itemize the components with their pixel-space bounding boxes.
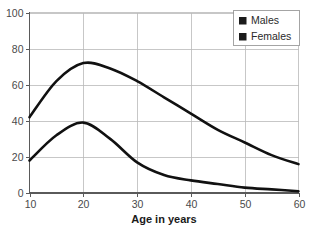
x-tick-label: 30 [132,198,144,210]
y-tick-label: 80 [12,43,24,55]
y-tick-label: 20 [12,151,24,163]
x-axis-title: Age in years [131,213,196,225]
x-tick-label: 20 [78,198,90,210]
chart-legend: MalesFemales [234,11,300,46]
legend-label-males: Males [251,14,279,26]
y-tick-label: 0 [18,187,24,199]
legend-swatch-males [239,17,247,25]
chart-canvas: 102030405060 020406080100 Age in years M… [0,0,309,235]
y-tick-label: 60 [12,79,24,91]
y-tick-label: 100 [6,7,24,19]
x-tick-label: 50 [240,198,252,210]
x-tick-label: 10 [25,198,37,210]
line-chart: 102030405060 020406080100 Age in years M… [0,0,309,235]
y-tick-label: 40 [12,115,24,127]
legend-swatch-females [239,33,247,41]
legend-label-females: Females [251,30,291,42]
x-tick-label: 60 [294,198,306,210]
x-tick-label: 40 [186,198,198,210]
